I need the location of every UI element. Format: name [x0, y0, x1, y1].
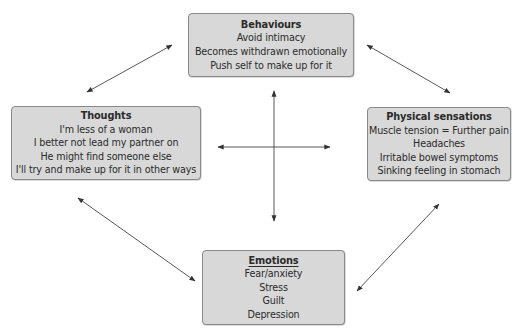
behaviours-title: Behaviours	[241, 18, 301, 32]
emotions-box: Emotions Fear/anxiety Stress Guilt Depre…	[202, 250, 345, 325]
thoughts-item: He might find someone else	[40, 150, 171, 164]
arrow-thoughts-emotions	[78, 198, 195, 281]
physical-sensations-item: Irritable bowel symptoms	[380, 151, 498, 165]
arrow-physical-emotions	[357, 204, 439, 291]
behaviours-item: Avoid intimacy	[237, 31, 306, 45]
behaviours-box: Behaviours Avoid intimacy Becomes withdr…	[188, 13, 354, 77]
thoughts-item: I'll try and make up for it in other way…	[16, 163, 196, 177]
emotions-title: Emotions	[248, 254, 298, 268]
emotions-item: Fear/anxiety	[245, 267, 303, 281]
physical-sensations-box: Physical sensations Muscle tension = Fur…	[367, 107, 511, 181]
thoughts-title: Thoughts	[81, 109, 132, 123]
emotions-item: Guilt	[263, 294, 285, 308]
physical-sensations-title: Physical sensations	[386, 110, 492, 124]
thoughts-box: Thoughts I'm less of a woman I better no…	[11, 106, 201, 180]
emotions-item: Stress	[259, 281, 288, 295]
physical-sensations-item: Headaches	[413, 137, 465, 151]
thoughts-item: I better not lead my partner on	[34, 136, 179, 150]
physical-sensations-item: Muscle tension = Further pain	[369, 124, 509, 138]
behaviours-item: Push self to make up for it	[210, 59, 332, 73]
arrow-behaviours-physical	[367, 45, 450, 93]
arrow-thoughts-behaviours	[87, 45, 172, 92]
physical-sensations-item: Sinking feeling in stomach	[377, 164, 500, 178]
emotions-item: Depression	[247, 308, 299, 322]
thoughts-item: I'm less of a woman	[60, 123, 153, 137]
behaviours-item: Becomes withdrawn emotionally	[195, 45, 347, 59]
